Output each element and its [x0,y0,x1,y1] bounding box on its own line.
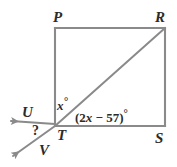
vertex-label-R: R [155,10,165,25]
ray-endpoint-label-U: U [22,105,33,120]
degree-symbol-x: ° [64,95,68,107]
degree-symbol-expression: ° [124,107,128,119]
ray-endpoint-label-V: V [39,143,49,158]
expression-tail: − 57) [92,110,123,125]
geometry-figure: P R S T U V x° (2x − 57)° ? [0,0,177,167]
angle-label-unknown: ? [32,124,39,138]
vertex-label-S: S [155,131,163,146]
vertex-label-T: T [57,128,66,143]
figure-canvas [0,0,177,167]
angle-label-expression: (2x − 57)° [75,108,128,124]
vertex-label-P: P [53,10,62,25]
angle-label-x: x° [57,96,68,112]
expression-lead: (2 [75,110,86,125]
